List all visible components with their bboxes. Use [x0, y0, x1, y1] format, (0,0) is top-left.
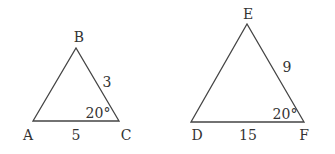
vertex-label-f: F — [299, 127, 309, 143]
triangle-abc: B A C 3 5 20° — [22, 29, 131, 143]
vertex-label-e: E — [243, 6, 253, 22]
vertex-label-a: A — [22, 127, 34, 143]
side-label-ef: 9 — [283, 59, 292, 75]
similar-triangles-diagram: B A C 3 5 20° E D F 9 15 20° — [0, 0, 335, 154]
vertex-label-d: D — [191, 127, 202, 143]
side-label-df: 15 — [239, 127, 257, 143]
vertex-label-b: B — [74, 29, 84, 45]
triangle-def: E D F 9 15 20° — [191, 6, 309, 143]
side-label-bc: 3 — [103, 74, 112, 90]
side-label-ac: 5 — [72, 127, 81, 143]
vertex-label-c: C — [121, 127, 132, 143]
angle-label-f: 20° — [273, 106, 298, 122]
angle-label-c: 20° — [86, 105, 111, 121]
